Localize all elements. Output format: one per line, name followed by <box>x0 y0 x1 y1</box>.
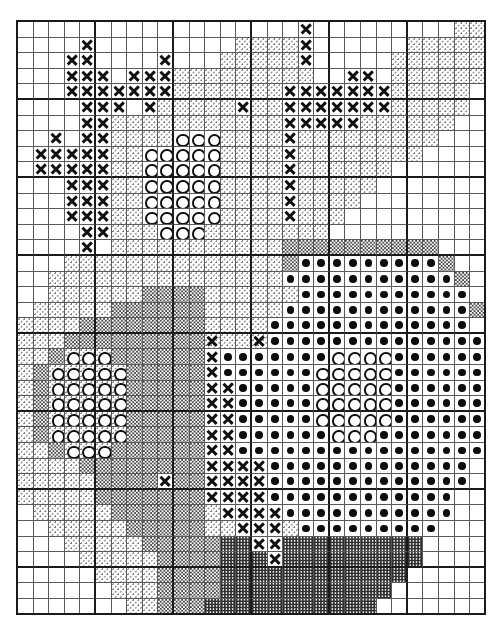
pattern-cell <box>236 303 252 319</box>
pattern-cell <box>299 303 315 319</box>
pattern-cell <box>236 474 252 490</box>
dot-symbol <box>439 381 454 396</box>
pattern-cell <box>252 116 268 132</box>
pattern-cell <box>221 412 237 428</box>
pattern-cell <box>49 568 65 584</box>
pattern-cell <box>439 474 455 490</box>
pattern-cell <box>439 459 455 475</box>
pattern-cell <box>236 194 252 210</box>
pattern-cell <box>361 225 377 241</box>
pattern-cell <box>190 131 206 147</box>
pattern-cell <box>377 365 393 381</box>
pattern-cell <box>377 349 393 365</box>
pattern-cell <box>470 162 486 178</box>
pattern-cell <box>96 552 112 568</box>
pattern-cell <box>283 552 299 568</box>
pattern-cell <box>252 521 268 537</box>
pattern-cell <box>127 349 143 365</box>
circle-symbol <box>345 381 360 396</box>
pattern-cell <box>439 131 455 147</box>
cross-symbol <box>252 490 267 505</box>
pattern-cell <box>205 568 221 584</box>
dot-symbol <box>439 303 454 318</box>
circle-symbol <box>143 178 158 193</box>
pattern-cell <box>408 194 424 210</box>
pattern-cell <box>236 131 252 147</box>
pattern-cell <box>190 599 206 615</box>
pattern-cell <box>408 521 424 537</box>
pattern-cell <box>49 100 65 116</box>
circle-symbol <box>377 365 392 380</box>
pattern-cell <box>377 474 393 490</box>
pattern-cell <box>408 459 424 475</box>
pattern-cell <box>49 490 65 506</box>
pattern-cell <box>205 318 221 334</box>
dot-symbol <box>283 412 298 427</box>
cross-symbol <box>80 38 94 53</box>
cross-symbol <box>221 490 236 505</box>
pattern-cell <box>283 599 299 615</box>
cross-symbol <box>96 225 111 240</box>
pattern-cell <box>80 131 96 147</box>
cross-symbol <box>143 84 158 98</box>
cross-symbol <box>80 53 94 68</box>
pattern-cell <box>268 443 284 459</box>
dot-symbol <box>408 287 423 302</box>
dot-symbol <box>361 272 376 287</box>
pattern-cell <box>330 84 346 100</box>
cross-symbol <box>252 505 267 520</box>
pattern-cell <box>221 147 237 163</box>
cross-symbol <box>268 552 283 566</box>
pattern-cell <box>361 69 377 85</box>
pattern-cell <box>408 100 424 116</box>
cross-symbol <box>314 116 328 131</box>
pattern-cell <box>80 521 96 537</box>
pattern-cell <box>190 38 206 54</box>
pattern-cell <box>174 505 190 521</box>
pattern-cell <box>158 396 174 412</box>
pattern-cell <box>361 583 377 599</box>
pattern-cell <box>361 209 377 225</box>
pattern-cell <box>314 303 330 319</box>
pattern-cell <box>221 568 237 584</box>
dot-symbol <box>377 443 392 458</box>
dot-symbol <box>283 474 298 488</box>
pattern-cell <box>143 583 159 599</box>
pattern-cell <box>34 443 50 459</box>
pattern-cell <box>221 381 237 397</box>
pattern-cell <box>65 583 81 599</box>
pattern-cell <box>174 162 190 178</box>
pattern-cell <box>314 412 330 428</box>
pattern-cell <box>330 599 346 615</box>
pattern-cell <box>205 365 221 381</box>
pattern-cell <box>190 209 206 225</box>
pattern-cell <box>190 303 206 319</box>
pattern-cell <box>439 490 455 506</box>
pattern-cell <box>252 256 268 272</box>
pattern-cell <box>143 256 159 272</box>
pattern-cell <box>268 69 284 85</box>
pattern-cell <box>361 256 377 272</box>
pattern-cell <box>96 568 112 584</box>
pattern-cell <box>80 38 96 54</box>
pattern-cell <box>345 349 361 365</box>
circle-symbol <box>65 396 80 410</box>
pattern-cell <box>112 334 128 350</box>
pattern-cell <box>205 459 221 475</box>
pattern-cell <box>18 412 34 428</box>
pattern-cell <box>112 287 128 303</box>
dot-symbol <box>236 443 250 458</box>
pattern-cell <box>18 53 34 69</box>
pattern-cell <box>34 599 50 615</box>
pattern-cell <box>127 287 143 303</box>
pattern-cell <box>221 194 237 210</box>
pattern-cell <box>190 334 206 350</box>
pattern-cell <box>408 256 424 272</box>
dot-symbol <box>299 365 314 380</box>
pattern-cell <box>439 272 455 288</box>
pattern-cell <box>299 38 315 54</box>
pattern-cell <box>408 38 424 54</box>
pattern-cell <box>221 53 237 69</box>
circle-symbol <box>377 349 392 364</box>
pattern-cell <box>439 412 455 428</box>
